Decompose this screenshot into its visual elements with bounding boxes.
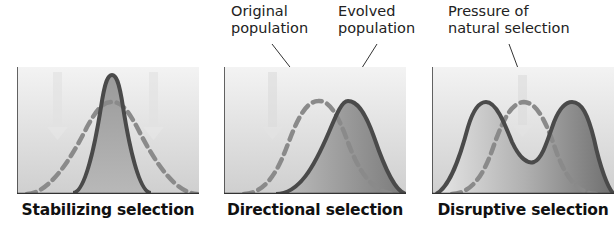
caption-stabilizing: Stabilizing selection (8, 201, 208, 219)
label-pressure-of-natural-selection: Pressure of natural selection (448, 3, 570, 37)
label-original-population: Original population (231, 3, 308, 37)
caption-disruptive: Disruptive selection (423, 201, 616, 219)
label-evolved-population: Evolved population (338, 3, 415, 37)
panel-disruptive-selection (432, 67, 614, 194)
caption-directional: Directional selection (215, 201, 415, 219)
panel-stabilizing-selection (17, 67, 199, 194)
panel-directional-selection (224, 67, 406, 194)
